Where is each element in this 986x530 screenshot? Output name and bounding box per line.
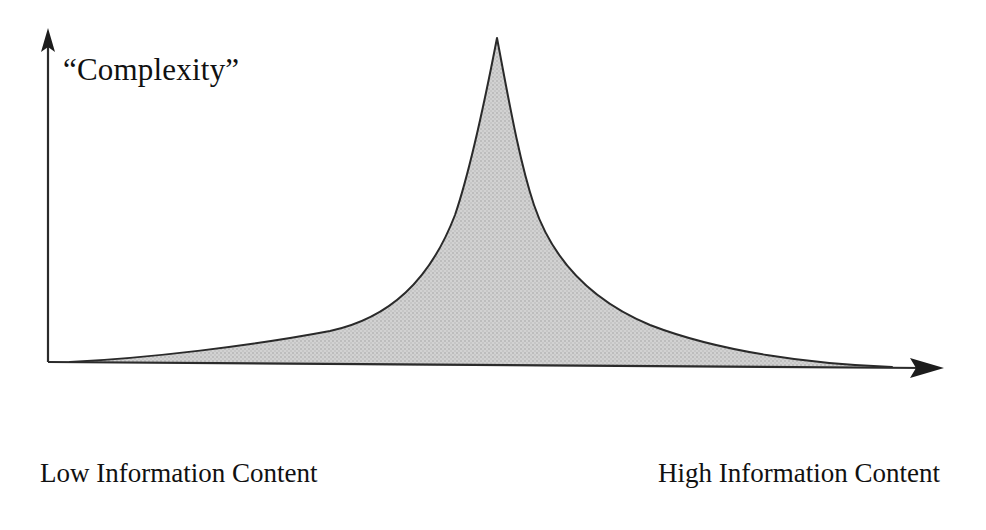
left-caption: Low Information Content High Compressibi… bbox=[40, 388, 317, 530]
complexity-figure: “Complexity” Low Information Content Hig… bbox=[0, 0, 986, 530]
right-caption: High Information Content Low Compressibi… bbox=[658, 388, 940, 530]
y-axis-label: “Complexity” bbox=[63, 52, 239, 89]
right-caption-line-1: High Information Content bbox=[658, 456, 940, 490]
left-caption-line-1: Low Information Content bbox=[40, 456, 317, 490]
